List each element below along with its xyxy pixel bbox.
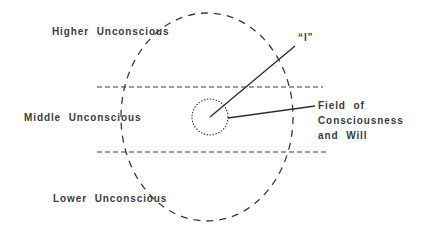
self-pointer-line: [210, 46, 295, 117]
label-field-line1: Field of: [318, 100, 365, 112]
label-lower-unconscious: Lower Unconscious: [53, 193, 167, 205]
label-middle-unconscious: Middle Unconscious: [24, 112, 141, 124]
label-field-line3: and Will: [318, 130, 367, 142]
label-field-line2: Consciousness: [318, 115, 404, 127]
outer-egg-ellipse: [121, 13, 293, 221]
label-higher-unconscious: Higher Unconscious: [52, 26, 169, 38]
label-self-i: “I”: [298, 32, 313, 44]
field-pointer-line: [228, 106, 315, 118]
